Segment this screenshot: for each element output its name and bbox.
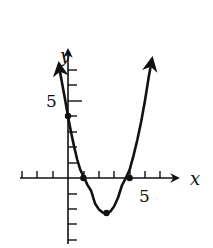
vertex-point: [103, 210, 109, 216]
x-axis-label: x: [190, 168, 200, 189]
parabola-graph: y x 5 5: [0, 0, 213, 248]
y-tick-label-5: 5: [46, 91, 57, 111]
x-intercept-point-1: [80, 175, 86, 181]
marked-points: [65, 113, 133, 216]
x-tick-label-5: 5: [139, 186, 150, 206]
x-axis: [20, 171, 178, 178]
x-intercept-point-4: [126, 175, 132, 181]
y-intercept-point: [65, 113, 71, 119]
y-axis-label: y: [59, 45, 71, 66]
